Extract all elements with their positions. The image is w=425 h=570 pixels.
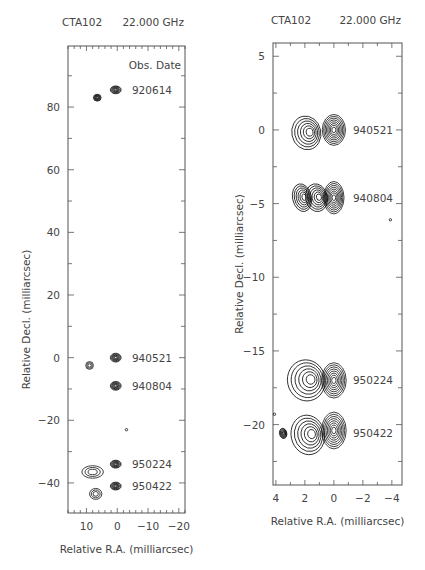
contour-level [327,371,340,390]
contour-level [114,89,116,91]
epoch-label: 950224 [353,374,393,386]
contour-level [329,189,340,206]
y-tick-label: 20 [47,289,60,301]
y-tick-label: 0 [258,124,265,136]
y-tick-label: 0 [53,352,60,364]
contour-level [326,120,341,140]
contour-level [307,429,316,440]
contour-level [332,427,336,434]
noise-contour [389,219,391,221]
contour-level [322,412,347,449]
contour-level [322,114,345,145]
y-tick-label: −20 [38,414,60,426]
x-tick-label: 0 [331,492,338,504]
contour-level [114,357,116,359]
contour-level [327,187,340,208]
y-axis-label: Relative Decl. (milliarcsec) [20,250,32,390]
epoch-label: 950422 [132,480,172,492]
contour-level [306,128,314,137]
contour-level [305,374,315,385]
contour-level [93,492,98,497]
y-tick-label: −10 [243,271,265,283]
epoch-950422: 950422 [279,412,393,458]
y-tick-label: −20 [243,419,265,431]
frequency-title: 22.000 GHz [339,14,401,26]
y-tick-label: 40 [47,226,60,238]
epoch-label: 920614 [132,84,172,96]
epoch-940521: 940521 [86,352,172,370]
contour-level [332,377,336,383]
source-title: CTA102 [271,14,311,26]
epoch-940804: 940804 [110,380,172,392]
x-axis-label: Relative R.A. (milliarcsec) [60,543,194,555]
epoch-label: 950224 [132,458,172,470]
contour-level [114,463,116,465]
contour-level [301,370,318,389]
y-tick-label: −15 [243,345,265,357]
contour-level [96,97,98,99]
source-title: CTA102 [62,16,102,28]
noise-contour [125,428,127,430]
epoch-label: 940521 [132,352,172,364]
plot-frame [273,43,402,485]
contour-level [283,432,285,435]
x-tick-label: −10 [137,520,159,532]
epoch-950422: 950422 [90,480,172,499]
x-tick-label: 10 [80,520,93,532]
y-axis-label: Relative Decl. (milliarcsec) [233,194,245,334]
contour-level [327,421,340,441]
contour-level [88,469,97,474]
x-tick-label: 2 [302,492,309,504]
contour-level [88,364,91,367]
contour-level [326,369,342,392]
epoch-950224: 950224 [284,356,394,404]
x-tick-label: −4 [384,492,400,504]
epoch-label: 940804 [353,192,393,204]
y-tick-label: 80 [47,101,60,113]
noise-contour [273,413,275,415]
contour-level [332,127,336,132]
contour-level [303,425,319,443]
epoch-920614: 920614 [93,84,172,101]
contour-level [114,485,116,487]
contour-level [301,194,307,201]
x-tick-label: 0 [114,520,121,532]
epoch-label: 940521 [353,124,393,136]
epoch-label: 950422 [353,427,393,439]
x-tick-label: 4 [273,492,280,504]
y-tick-label: 60 [47,164,60,176]
panel-wide-field: CTA10222.000 GHz100−10−20806040200−20−40… [20,16,193,555]
y-tick-label: 5 [258,50,265,62]
contour-level [316,193,322,200]
y-tick-label: −5 [250,198,265,210]
contour-level [326,419,342,443]
epoch-940804: 940804 [290,181,393,213]
panel-zoomed: CTA10222.000 GHz420−2−450−5−10−15−20Rela… [233,14,404,527]
frequency-title: 22.000 GHz [122,16,184,28]
contour-level [85,467,100,476]
y-tick-label: −40 [38,477,60,489]
x-tick-label: −2 [355,492,370,504]
vlbi-contour-figure: CTA10222.000 GHz100−10−20806040200−20−40… [0,0,425,570]
legend-header: Obs. Date [129,59,181,71]
contour-level [332,195,336,201]
plot-frame [68,46,185,513]
contour-level [328,122,340,138]
epoch-950224: 950224 [82,458,172,478]
x-tick-label: −20 [168,520,190,532]
epoch-940521: 940521 [289,113,393,152]
x-axis-label: Relative R.A. (milliarcsec) [271,515,405,527]
epoch-label: 940804 [132,380,172,392]
contour-level [114,385,116,387]
contour-level [302,125,316,140]
contour-level [324,181,344,213]
